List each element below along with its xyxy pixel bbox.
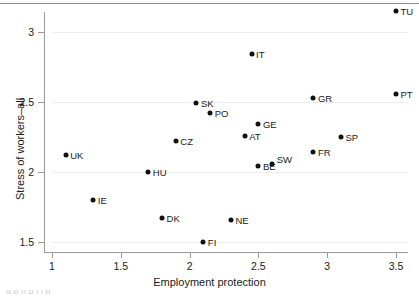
scatter-point bbox=[256, 164, 261, 169]
x-axis-tick bbox=[52, 253, 53, 258]
scatter-point bbox=[256, 122, 261, 127]
scatter-point bbox=[146, 170, 151, 175]
scatter-point bbox=[228, 217, 233, 222]
scatter-point-label: FI bbox=[208, 237, 216, 248]
scatter-point-label: TU bbox=[401, 6, 414, 17]
y-axis-tick bbox=[38, 242, 44, 243]
x-axis-title: Employment protection bbox=[0, 276, 419, 288]
scatter-point-label: IT bbox=[256, 49, 264, 60]
scatter-point bbox=[311, 95, 316, 100]
scatter-point-label: PT bbox=[401, 88, 413, 99]
scatter-point-label: CZ bbox=[180, 136, 193, 147]
y-axis-line bbox=[44, 12, 45, 253]
y-axis-tick-label: 2 bbox=[28, 166, 34, 178]
scatter-point-label: GE bbox=[263, 119, 277, 130]
scatter-point bbox=[201, 240, 206, 245]
gridline-y bbox=[52, 102, 408, 103]
gridline-y bbox=[52, 172, 408, 173]
x-axis-tick bbox=[121, 253, 122, 258]
scatter-point bbox=[160, 216, 165, 221]
scatter-point bbox=[394, 91, 399, 96]
x-axis-tick bbox=[258, 253, 259, 258]
scatter-point-label: HU bbox=[153, 167, 167, 178]
x-axis-line bbox=[44, 252, 408, 253]
x-axis-tick bbox=[327, 253, 328, 258]
y-axis-title: Stress of workers–all bbox=[14, 98, 26, 200]
scatter-point-label: NE bbox=[235, 214, 248, 225]
scatter-point-label: AT bbox=[249, 130, 260, 141]
scatter-point bbox=[173, 139, 178, 144]
scatter-point-label: IE bbox=[98, 195, 107, 206]
y-axis-tick-label: 3 bbox=[28, 26, 34, 38]
scatter-point bbox=[394, 9, 399, 14]
gridline-y bbox=[52, 242, 408, 243]
scatter-point bbox=[338, 135, 343, 140]
y-axis-tick bbox=[38, 172, 44, 173]
cropped-caption-text: a b h d f l d bbox=[6, 290, 51, 296]
x-axis-tick-label: 1 bbox=[49, 260, 55, 272]
scatter-point bbox=[194, 101, 199, 106]
scatter-point-label: SK bbox=[201, 98, 214, 109]
scatter-point-label: UK bbox=[70, 150, 83, 161]
x-axis-tick-label: 1.5 bbox=[113, 260, 128, 272]
scatter-point-label: GR bbox=[318, 92, 332, 103]
scatter-point-label: DK bbox=[167, 213, 180, 224]
scatter-point bbox=[242, 133, 247, 138]
y-axis-tick bbox=[38, 32, 44, 33]
x-axis-tick-label: 3 bbox=[324, 260, 330, 272]
y-axis-tick-label: 1.5 bbox=[19, 236, 34, 248]
scatter-point-label: FR bbox=[318, 147, 331, 158]
scatter-point-label: SW bbox=[277, 153, 292, 164]
scatter-point bbox=[63, 153, 68, 158]
x-axis-tick-label: 3.5 bbox=[389, 260, 404, 272]
x-axis-tick bbox=[190, 253, 191, 258]
scatter-plot-figure: 1.522.53 11.522.533.5 UKIEHUDKCZSKFIPONE… bbox=[0, 0, 419, 296]
scatter-point bbox=[208, 111, 213, 116]
gridline-y bbox=[52, 32, 408, 33]
y-axis-tick bbox=[38, 102, 44, 103]
scatter-point bbox=[91, 198, 96, 203]
x-axis-tick bbox=[396, 253, 397, 258]
cropped-caption-strip: a b h d f l d bbox=[0, 290, 419, 296]
scatter-point-label: PO bbox=[215, 108, 229, 119]
scatter-point bbox=[311, 150, 316, 155]
scatter-point bbox=[249, 52, 254, 57]
scatter-point-label: SP bbox=[345, 132, 358, 143]
x-axis-tick-label: 2.5 bbox=[251, 260, 266, 272]
scatter-point bbox=[270, 161, 275, 166]
x-axis-tick-label: 2 bbox=[187, 260, 193, 272]
page-divider-rule bbox=[0, 3, 419, 4]
